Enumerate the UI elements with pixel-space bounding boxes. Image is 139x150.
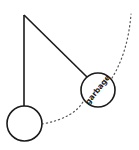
rest-bob (7, 106, 42, 141)
pendulum-svg: garbage (0, 0, 139, 150)
swung-string (24, 15, 87, 77)
pendulum-diagram: garbage (0, 0, 139, 150)
swing-arc-mid (42, 104, 84, 124)
swing-arc (42, 14, 131, 124)
